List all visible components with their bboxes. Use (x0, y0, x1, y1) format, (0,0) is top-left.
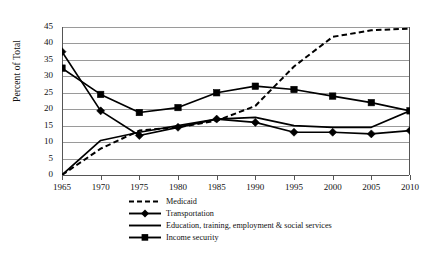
legend-item[interactable]: Income security (128, 232, 332, 243)
data-point-marker (368, 99, 374, 105)
plain-line-key (128, 220, 162, 231)
x-axis-tick-label: 2000 (316, 182, 350, 192)
data-point-marker (329, 128, 337, 136)
x-axis-tick-mark (255, 175, 256, 180)
data-point-marker (213, 90, 219, 96)
x-axis-tick-mark (294, 175, 295, 180)
series-transportation (62, 52, 410, 136)
data-point-marker (251, 118, 259, 126)
series-lines-layer (62, 27, 410, 175)
x-axis-tick-mark (333, 175, 334, 180)
series-medicaid (62, 29, 410, 175)
x-axis-tick-label: 1995 (277, 182, 311, 192)
data-point-marker (290, 128, 298, 136)
x-axis-tick-label: 1980 (161, 182, 195, 192)
data-point-marker (291, 86, 297, 92)
series-line (62, 29, 410, 175)
x-axis-tick-mark (217, 175, 218, 180)
legend-item[interactable]: Education, training, employment & social… (128, 220, 332, 231)
y-axis-tick-label: 20 (0, 103, 53, 113)
y-axis-tick-label: 45 (0, 21, 53, 31)
data-point-marker (97, 91, 103, 97)
legend-item-label: Medicaid (166, 196, 197, 207)
data-point-marker (62, 65, 65, 71)
x-axis-tick-mark (139, 175, 140, 180)
legend-key-diamond-marker (141, 210, 149, 218)
legend-item[interactable]: Medicaid (128, 196, 332, 207)
chart-legend: MedicaidTransportationEducation, trainin… (128, 196, 332, 244)
x-axis-tick-mark (178, 175, 179, 180)
series-line (62, 68, 410, 112)
data-point-marker (252, 83, 258, 89)
x-axis-tick-label: 2010 (393, 182, 427, 192)
data-point-marker (329, 93, 335, 99)
gridline (63, 175, 409, 176)
data-point-marker (406, 127, 410, 135)
data-point-marker (367, 130, 375, 138)
legend-item-label: Education, training, employment & social… (166, 220, 332, 231)
y-axis-tick-label: 35 (0, 54, 53, 64)
y-axis-tick-label: 10 (0, 136, 53, 146)
series-income-security (62, 68, 410, 112)
y-axis-tick-label: 40 (0, 37, 53, 47)
x-axis-tick-label: 1990 (238, 182, 272, 192)
legend-key-square-marker (142, 234, 149, 241)
legend-item-label: Income security (166, 232, 219, 243)
legend-item-label: Transportation (166, 208, 214, 219)
series-line (62, 52, 410, 136)
data-point-marker (175, 104, 181, 110)
x-axis-tick-label: 2005 (354, 182, 388, 192)
x-axis-tick-label: 1975 (122, 182, 156, 192)
square-marker-key (128, 232, 162, 243)
dashed-line-key (128, 196, 162, 207)
y-axis-tick-label: 30 (0, 70, 53, 80)
x-axis-tick-mark (410, 175, 411, 180)
x-axis-tick-mark (62, 175, 63, 180)
y-axis-tick-label: 5 (0, 153, 53, 163)
x-axis-tick-label: 1970 (84, 182, 118, 192)
y-axis-tick-label: 15 (0, 120, 53, 130)
diamond-marker-key (128, 208, 162, 219)
data-point-marker (407, 108, 410, 114)
x-axis-tick-mark (101, 175, 102, 180)
chart-root: Percent of Total 051015202530354045 1965… (0, 0, 427, 262)
x-axis-tick-mark (371, 175, 372, 180)
y-axis-tick-label: 25 (0, 87, 53, 97)
data-point-marker (136, 109, 142, 115)
x-axis-tick-label: 1985 (200, 182, 234, 192)
x-axis-tick-label: 1965 (45, 182, 79, 192)
legend-item[interactable]: Transportation (128, 208, 332, 219)
y-axis-tick-label: 0 (0, 169, 53, 179)
